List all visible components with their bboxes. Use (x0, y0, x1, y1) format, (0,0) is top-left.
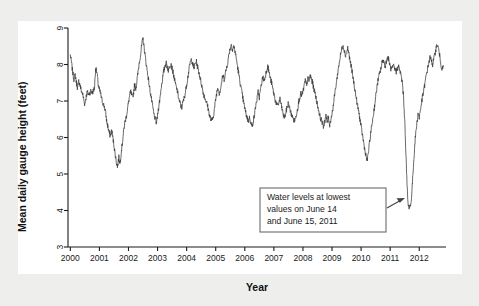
x-tick-label: 2000 (61, 253, 80, 263)
y-tick-label: 9 (55, 25, 65, 30)
y-tick-label: 5 (55, 171, 65, 176)
annotation-callout: Water levels at lowest values on June 14… (260, 188, 405, 232)
x-tick-label: 2007 (264, 253, 283, 263)
y-tick-label: 3 (55, 244, 65, 249)
x-tick-label: 2005 (206, 253, 225, 263)
y-axis-title: Mean daily gauge height (feet) (16, 81, 28, 232)
series-line (70, 38, 443, 210)
x-tick-label: 2009 (323, 253, 342, 263)
y-tick-label: 6 (55, 135, 65, 140)
x-tick-label: 2002 (119, 253, 138, 263)
y-tick-label: 7 (55, 98, 65, 103)
x-axis-title: Year (246, 281, 268, 293)
x-tick-label: 2004 (177, 253, 196, 263)
y-tick-label: 8 (55, 62, 65, 67)
x-tick-label: 2003 (148, 253, 167, 263)
annotation-line-3: and June 15, 2011 (267, 216, 338, 226)
annotation-arrow-icon (387, 198, 405, 208)
y-tick-label: 4 (55, 208, 65, 213)
annotation-line-2: values on June 14 (267, 204, 337, 214)
line-chart: 3456789200020012002200320042005200620072… (0, 0, 479, 306)
x-tick-label: 2012 (410, 253, 429, 263)
figure-container: 3456789200020012002200320042005200620072… (0, 0, 479, 306)
annotation-line-1: Water levels at lowest (267, 192, 351, 202)
x-tick-label: 2001 (90, 253, 109, 263)
x-tick-label: 2010 (352, 253, 371, 263)
x-tick-label: 2008 (293, 253, 312, 263)
x-tick-label: 2006 (235, 253, 254, 263)
x-tick-label: 2011 (381, 253, 400, 263)
